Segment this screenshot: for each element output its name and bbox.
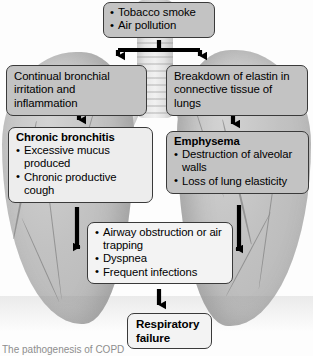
list-item: Air pollution xyxy=(110,19,209,32)
node-airway-obstruction[interactable]: Airway obstruction or air trapping Dyspn… xyxy=(87,222,233,284)
list-item: Loss of lung elasticity xyxy=(174,175,304,188)
node-bronchial-irritation[interactable]: Continual bronchial irritation and infla… xyxy=(6,65,147,116)
arrow-cause-split xyxy=(118,40,200,56)
figure-caption: The pathogenesis of COPD xyxy=(2,344,302,355)
node-heading: Emphysema xyxy=(174,135,304,148)
obstruction-list: Airway obstruction or air trapping Dyspn… xyxy=(95,226,227,279)
list-item: Dyspnea xyxy=(95,252,227,265)
node-text: Continual bronchial irritation and infla… xyxy=(14,70,110,109)
causes-list: Tobacco smoke Air pollution xyxy=(110,6,209,33)
node-emphysema[interactable]: Emphysema Destruction of alveolar walls … xyxy=(166,131,309,194)
list-item: Airway obstruction or air trapping xyxy=(95,226,227,252)
chronic-bronchitis-list: Excessive mucus produced Chronic product… xyxy=(16,144,147,197)
node-heading: Chronic bronchitis xyxy=(16,131,147,144)
node-text: Respiratory failure xyxy=(136,317,199,344)
arrow-emphysema-to-obstruction xyxy=(236,205,239,249)
node-chronic-bronchitis[interactable]: Chronic bronchitis Excessive mucus produ… xyxy=(8,127,153,203)
list-item: Tobacco smoke xyxy=(110,6,209,19)
list-item: Frequent infections xyxy=(95,266,227,279)
node-elastin-breakdown[interactable]: Breakdown of elastin in connective tissu… xyxy=(166,65,308,116)
list-item: Destruction of alveolar walls xyxy=(174,148,304,174)
arrow-bronchitis-to-obstruction xyxy=(77,207,80,247)
node-causes[interactable]: Tobacco smoke Air pollution xyxy=(103,2,215,38)
list-item: Excessive mucus produced xyxy=(16,144,147,170)
list-item: Chronic productive cough xyxy=(16,171,147,197)
emphysema-list: Destruction of alveolar walls Loss of lu… xyxy=(174,148,304,188)
node-text: Breakdown of elastin in connective tissu… xyxy=(174,70,289,109)
diagram-canvas: Tobacco smoke Air pollution Continual br… xyxy=(0,0,313,356)
